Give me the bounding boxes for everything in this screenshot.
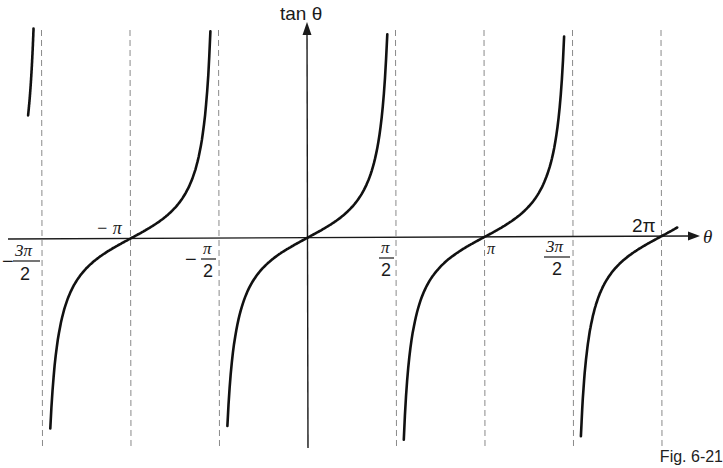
tick-label-pi-over-2: π 2: [379, 238, 394, 280]
tick-denominator: 2: [203, 261, 213, 281]
tick-label-neg-pi-over-2: − π 2: [185, 239, 216, 281]
tick-denominator: 2: [20, 264, 30, 284]
x-axis-arrowhead-icon: [688, 232, 700, 241]
tick-label-pi: π: [487, 240, 496, 257]
dashed-guide-line: [396, 30, 397, 448]
y-axis-label: tan θ: [280, 3, 322, 24]
tangent-curve-branches: [28, 29, 677, 440]
tick-label-two-pi: 2π: [632, 215, 656, 236]
tick-sign: −: [2, 250, 14, 272]
tick-label-neg-3pi-over-2: − 3π 2: [2, 241, 40, 284]
tick-denominator: 2: [552, 259, 562, 279]
tangent-branch: [28, 29, 33, 116]
tick-numerator: 3π: [545, 237, 564, 256]
dashed-guide-line: [573, 30, 574, 448]
tangent-branch: [581, 228, 677, 437]
x-axis-label: θ: [703, 226, 712, 247]
dashed-guide-line: [661, 30, 662, 448]
dashed-guide-line: [218, 30, 219, 448]
tangent-branch: [404, 37, 564, 440]
tick-sign: −: [185, 248, 197, 270]
dashed-guide-line: [484, 30, 485, 448]
tick-numerator: π: [381, 238, 390, 257]
tick-label-3pi-over-2: 3π 2: [544, 237, 570, 279]
tick-numerator: π: [203, 239, 212, 258]
tick-numerator: 3π: [14, 241, 33, 260]
tick-denominator: 2: [381, 260, 391, 280]
tick-label-neg-pi: − π: [96, 218, 123, 238]
figure-caption: Fig. 6-21: [660, 448, 723, 466]
